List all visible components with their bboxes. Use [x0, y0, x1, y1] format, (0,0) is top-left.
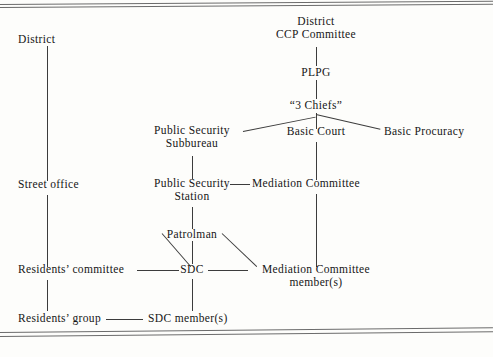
organizational-chart-figure: District District CCP Committee PLPG “3 …	[0, 0, 493, 357]
node-district-ccp-committee: District CCP Committee	[256, 15, 376, 41]
edge-patrolman-to-sdc	[192, 241, 193, 264]
edge-ccp-committee-to-plpg	[316, 47, 317, 66]
node-district-ccp-committee-line1: District	[297, 15, 334, 27]
node-sdc-member: SDC member(s)	[148, 312, 228, 325]
edge-sdc-to-mediation-committee-member	[208, 270, 248, 271]
node-patrolman: Patrolman	[160, 228, 224, 241]
node-public-security-subbureau-line2: Subbureau	[141, 137, 243, 150]
node-public-security-station: Public Security Station	[141, 177, 243, 203]
edge-basic-court-to-mediation-committee	[316, 142, 317, 180]
edge-residents-committee-to-sdc	[137, 270, 179, 271]
node-district-ccp-committee-line2: CCP Committee	[256, 28, 376, 41]
node-three-chiefs: “3 Chiefs”	[276, 99, 356, 112]
node-mediation-committee-member-line2: member(s)	[251, 276, 381, 289]
edge-mediation-committee-to-member	[316, 194, 317, 267]
node-public-security-station-line2: Station	[141, 190, 243, 203]
node-mediation-committee-member-line1: Mediation Committee	[262, 263, 370, 275]
node-public-security-subbureau-line1: Public Security	[154, 124, 230, 136]
edge-street-office-to-residents-committee	[47, 195, 48, 267]
edge-residents-committee-to-residents-group	[47, 280, 48, 311]
top-double-rule	[0, 1, 493, 10]
node-basic-court: Basic Court	[276, 125, 356, 138]
node-public-security-station-line1: Public Security	[154, 177, 230, 189]
edge-patrolman-to-mediation-committee-member	[222, 233, 258, 267]
node-mediation-committee: Mediation Committee	[252, 177, 360, 190]
node-sdc: SDC	[175, 263, 209, 276]
node-district: District	[18, 33, 55, 46]
edge-district-to-street-office	[47, 46, 48, 181]
edge-subbureau-to-station	[192, 156, 193, 179]
bottom-double-rule	[0, 327, 493, 338]
node-public-security-subbureau: Public Security Subbureau	[141, 124, 243, 150]
node-residents-committee: Residents’ committee	[18, 263, 124, 276]
node-plpg: PLPG	[286, 66, 346, 79]
edge-plpg-to-three-chiefs	[316, 80, 317, 99]
node-residents-group: Residents’ group	[18, 312, 101, 325]
edge-station-to-patrolman	[192, 207, 193, 229]
node-basic-procuracy: Basic Procuracy	[384, 125, 464, 138]
edge-sdc-to-sdc-member	[192, 279, 193, 311]
edge-residents-group-to-sdc-member	[106, 319, 143, 320]
node-street-office: Street office	[18, 178, 79, 191]
node-mediation-committee-member: Mediation Committee member(s)	[251, 263, 381, 289]
